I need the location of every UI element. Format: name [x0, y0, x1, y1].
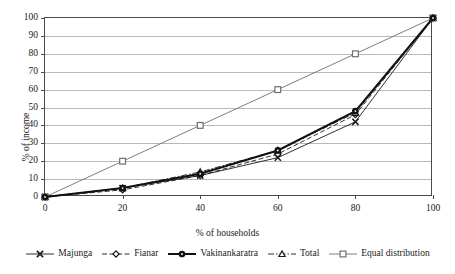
series-plot-layer: [45, 18, 433, 197]
data-point-marker-circle-filled: [120, 185, 126, 191]
x-axis-title: % of households: [0, 228, 455, 238]
data-point-marker-circle-filled: [180, 251, 186, 257]
legend-label: Equal distribution: [361, 249, 429, 259]
x-tick-label: 80: [351, 204, 361, 214]
data-point-marker-circle-filled: [430, 15, 436, 21]
legend-item-equal-distribution[interactable]: Equal distribution: [328, 248, 429, 260]
lorenz-curve-chart: % of income 0102030405060708090100 02040…: [0, 0, 455, 274]
legend-label: Total: [300, 249, 319, 259]
legend-swatch-diamond-icon: [101, 248, 131, 260]
series-line: [45, 18, 433, 197]
legend-item-majunga[interactable]: Majunga: [25, 248, 92, 260]
series-equal-distribution: [42, 15, 436, 200]
data-point-marker-circle-filled: [197, 171, 203, 177]
y-tick-label: 10: [29, 174, 39, 184]
y-tick-label: 20: [29, 156, 39, 166]
data-point-marker-square: [197, 123, 203, 129]
legend-label: Vakinankaratra: [200, 249, 258, 259]
y-tick-label: 40: [29, 121, 39, 131]
legend-swatch-square-icon: [328, 248, 358, 260]
legend-label: Majunga: [58, 249, 92, 259]
data-point-marker-circle-filled: [275, 148, 281, 154]
legend-item-vakinankaratra[interactable]: Vakinankaratra: [167, 248, 258, 260]
x-tick-mark: [433, 195, 434, 199]
data-point-marker-diamond: [113, 251, 119, 257]
data-point-marker-square: [340, 251, 346, 257]
legend-item-fianar[interactable]: Fianar: [101, 248, 158, 260]
x-tick-label: 60: [273, 204, 283, 214]
x-tick-label: 40: [195, 204, 205, 214]
x-tick-label: 20: [118, 204, 128, 214]
legend-item-total[interactable]: Total: [267, 248, 319, 260]
data-point-marker-circle-filled: [42, 194, 48, 200]
y-tick-label: 50: [29, 103, 39, 113]
legend-label: Fianar: [134, 249, 158, 259]
y-tick-label: 30: [29, 139, 39, 149]
plot-area: 0102030405060708090100 020406080100: [44, 17, 432, 196]
x-tick-label: 0: [43, 204, 48, 214]
legend-swatch-triangle-icon: [267, 248, 297, 260]
data-point-marker-square: [353, 51, 359, 57]
y-tick-label: 100: [24, 13, 38, 23]
y-tick-label: 70: [29, 67, 39, 77]
y-tick-label: 90: [29, 31, 39, 41]
y-tick-label: 60: [29, 85, 39, 95]
data-point-marker-square: [275, 87, 281, 93]
x-tick-label: 100: [426, 204, 440, 214]
legend-swatch-circle-filled-icon: [167, 248, 197, 260]
data-point-marker-circle-filled: [353, 108, 359, 114]
chart-legend: MajungaFianarVakinankaratraTotalEqual di…: [0, 246, 455, 262]
y-tick-label: 80: [29, 49, 39, 59]
legend-swatch-x-cross-icon: [25, 248, 55, 260]
data-point-marker-triangle: [279, 251, 285, 257]
data-point-marker-x-cross: [352, 119, 358, 125]
y-tick-label: 0: [33, 192, 38, 202]
data-point-marker-square: [120, 158, 126, 164]
